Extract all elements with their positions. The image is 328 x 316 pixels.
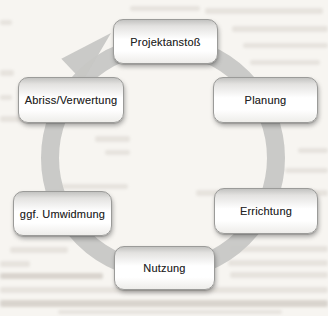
stage-box-errichtung: Errichtung xyxy=(214,188,318,234)
stage-label: Errichtung xyxy=(240,205,292,217)
stage-box-projektanstoss: Projektanstoß xyxy=(113,19,218,64)
stage-box-nutzung: Nutzung xyxy=(114,246,215,290)
stage-label: Nutzung xyxy=(143,262,185,274)
stage-label: Abriss/Verwertung xyxy=(25,94,118,106)
stage-label: Planung xyxy=(245,94,287,106)
stage-box-ggf-umwidmung: ggf. Umwidmung xyxy=(13,191,112,236)
stage-label: Projektanstoß xyxy=(130,36,200,48)
stage-box-abriss-verwertung: Abriss/Verwertung xyxy=(18,77,124,123)
scanned-page: Projektanstoß Planung Errichtung Nutzung… xyxy=(0,0,328,316)
stage-box-planung: Planung xyxy=(213,77,318,123)
stage-label: ggf. Umwidmung xyxy=(20,208,105,220)
